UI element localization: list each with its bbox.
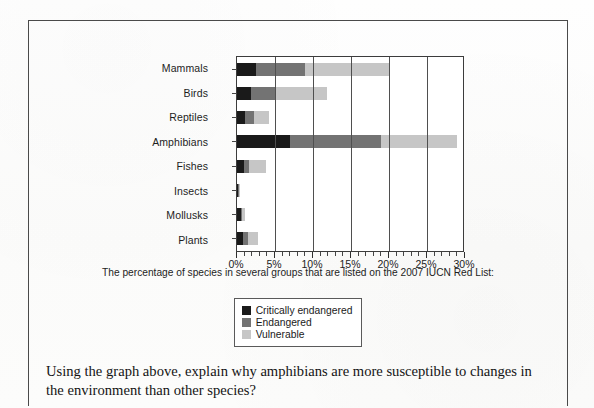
chart-legend: Critically endangeredEndangeredVulnerabl…: [28, 298, 568, 347]
x-tick-minor: [456, 252, 457, 256]
bar-segment: [245, 111, 255, 124]
bar-row: [237, 81, 463, 105]
legend-swatch-icon: [242, 330, 251, 339]
plot-area: [236, 56, 464, 252]
category-label: Reptiles: [133, 105, 215, 130]
bar-row: [237, 227, 463, 251]
bar-row: [237, 154, 463, 178]
bar-segment: [256, 63, 305, 76]
x-tick-minor: [320, 252, 321, 256]
x-tick-minor: [434, 252, 435, 256]
category-label: Mollusks: [133, 203, 215, 228]
gridline: [389, 57, 390, 251]
bar-segment: [242, 208, 244, 221]
category-label: Mammals: [133, 56, 215, 81]
question-text: Using the graph above, explain why amphi…: [46, 362, 546, 399]
bar-row: [237, 130, 463, 154]
category-label: Fishes: [133, 154, 215, 179]
stacked-bar: [237, 208, 245, 221]
legend-item: Critically endangered: [242, 305, 353, 316]
legend-label: Vulnerable: [256, 329, 305, 340]
stacked-bar: [237, 111, 269, 124]
bar-segment: [251, 87, 276, 100]
x-tick-minor: [358, 252, 359, 256]
legend-label: Critically endangered: [256, 305, 353, 316]
x-tick-minor: [418, 252, 419, 256]
category-label: Insects: [133, 179, 215, 204]
x-tick-minor: [441, 252, 442, 256]
figure-block: MammalsBirdsReptilesAmphibiansFishesInse…: [28, 20, 568, 350]
category-label: Birds: [133, 81, 215, 106]
category-axis-labels: MammalsBirdsReptilesAmphibiansFishesInse…: [133, 56, 215, 252]
x-tick-minor: [373, 252, 374, 256]
bar-row: [237, 178, 463, 202]
x-tick-minor: [403, 252, 404, 256]
bar-segment: [248, 232, 257, 245]
x-tick-minor: [380, 252, 381, 256]
x-tick-minor: [259, 252, 260, 256]
legend-box: Critically endangeredEndangeredVulnerabl…: [234, 298, 363, 347]
legend-label: Endangered: [256, 317, 312, 328]
x-tick-minor: [335, 252, 336, 256]
stacked-bar: [237, 135, 457, 148]
bar-segment: [276, 87, 327, 100]
legend-item: Endangered: [242, 317, 353, 328]
x-tick-minor: [282, 252, 283, 256]
x-tick-minor: [449, 252, 450, 256]
x-tick-minor: [266, 252, 267, 256]
x-tick-minor: [342, 252, 343, 256]
x-tick-minor: [327, 252, 328, 256]
bar-rows: [237, 57, 463, 251]
stacked-bar: [237, 232, 258, 245]
bar-segment: [237, 87, 251, 100]
bar-segment: [237, 63, 256, 76]
chart-caption: The percentage of species in several gro…: [88, 266, 508, 279]
bar-segment: [239, 184, 240, 197]
x-tick-minor: [289, 252, 290, 256]
bar-row: [237, 106, 463, 130]
stacked-bar: [237, 160, 266, 173]
x-tick-minor: [411, 252, 412, 256]
bar-row: [237, 203, 463, 227]
bar-segment: [290, 135, 381, 148]
x-tick-minor: [396, 252, 397, 256]
x-tick-minor: [365, 252, 366, 256]
gridline: [351, 57, 352, 251]
bar-segment: [237, 135, 290, 148]
x-tick-minor: [297, 252, 298, 256]
x-tick-minor: [304, 252, 305, 256]
gridline: [313, 57, 314, 251]
bar-segment: [237, 160, 244, 173]
x-tick-minor: [244, 252, 245, 256]
bar-segment: [254, 111, 268, 124]
category-label: Amphibians: [133, 130, 215, 155]
legend-swatch-icon: [242, 306, 251, 315]
bar-segment: [249, 160, 266, 173]
stacked-bar: [237, 184, 239, 197]
legend-item: Vulnerable: [242, 329, 353, 340]
bar-row: [237, 57, 463, 81]
category-label: Plants: [133, 228, 215, 253]
bar-segment: [381, 135, 457, 148]
bar-segment: [305, 63, 389, 76]
gridline: [427, 57, 428, 251]
gridline: [275, 57, 276, 251]
legend-swatch-icon: [242, 318, 251, 327]
bar-segment: [237, 111, 245, 124]
bar-chart: MammalsBirdsReptilesAmphibiansFishesInse…: [133, 35, 468, 270]
x-tick-minor: [251, 252, 252, 256]
